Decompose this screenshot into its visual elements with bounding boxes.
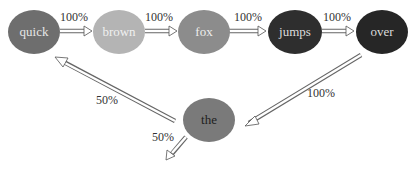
edge-label-quick-brown: 100% — [60, 10, 88, 25]
edge-label-over-the: 100% — [307, 86, 335, 101]
edge-label-the-quick: 50% — [96, 93, 118, 108]
edge-label-brown-fox: 100% — [145, 10, 173, 25]
node-brown: brown — [93, 10, 145, 54]
node-fox: fox — [178, 10, 230, 54]
node-jumps: jumps — [268, 10, 322, 54]
edge-label-the-exit: 50% — [152, 130, 174, 145]
edge-label-jumps-over: 100% — [323, 10, 351, 25]
node-over: over — [356, 10, 408, 54]
node-the: the — [183, 98, 235, 142]
node-quick: quick — [8, 10, 60, 54]
edge-label-fox-jumps: 100% — [234, 10, 262, 25]
